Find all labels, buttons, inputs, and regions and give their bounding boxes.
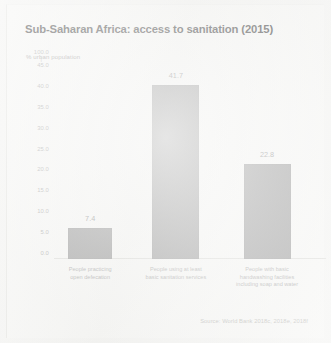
y-axis-tick-label: 40.0 (37, 83, 49, 89)
y-axis-tick-label: 20.0 (37, 166, 49, 172)
chart-page: Sub-Saharan Africa: access to sanitation… (0, 0, 331, 343)
bar[interactable] (244, 164, 291, 259)
y-axis-tick-label-anomaly: 100.0 (34, 49, 49, 55)
y-axis-tick-label: 30.0 (37, 125, 49, 131)
bar-group: 41.7People using at leastbasic sanitatio… (152, 85, 199, 259)
category-label-line: basic sanitation services (146, 274, 207, 282)
y-axis-tick-label: 10.0 (37, 208, 49, 214)
category-label-line: People practicing (69, 266, 112, 274)
bar-value-label: 41.7 (169, 71, 183, 80)
x-axis-category-label: People with basichandwashing facilitiesi… (236, 266, 298, 289)
bar-group: 7.4People practicingopen defecation (68, 228, 112, 259)
category-label-line: handwashing facilities (236, 274, 298, 282)
bar-group: 22.8People with basichandwashing facilit… (244, 164, 291, 259)
category-label-line: People using at least (146, 266, 207, 274)
bar[interactable] (68, 228, 112, 259)
y-axis-tick-label: 25.0 (37, 146, 49, 152)
category-label-line: open defecation (69, 274, 112, 282)
bar[interactable] (152, 85, 199, 259)
x-axis-category-label: People using at leastbasic sanitation se… (146, 266, 207, 281)
y-axis-tick-label: 35.0 (37, 104, 49, 110)
bar-value-label: 7.4 (85, 214, 95, 223)
bar-value-label: 22.8 (260, 150, 274, 159)
y-axis-artifact-mark: | (41, 56, 42, 62)
source-note: Source: World Bank 2018c, 2018e, 2018f (200, 318, 308, 324)
category-label-line: People with basic (236, 266, 298, 274)
chart-sheet: Sub-Saharan Africa: access to sanitation… (6, 4, 324, 338)
y-axis-tick-label: 15.0 (37, 187, 49, 193)
y-axis-tick-label: 45.0 (37, 62, 49, 68)
x-axis-category-label: People practicingopen defecation (69, 266, 112, 281)
chart-title: Sub-Saharan Africa: access to sanitation… (25, 23, 273, 35)
y-axis-tick-label: 5.0 (41, 229, 50, 235)
category-label-line: including soap and water (236, 281, 298, 289)
plot-area: 45.040.035.030.025.020.015.010.05.00.010… (54, 71, 322, 259)
y-axis-tick-label: 0.0 (41, 250, 50, 256)
